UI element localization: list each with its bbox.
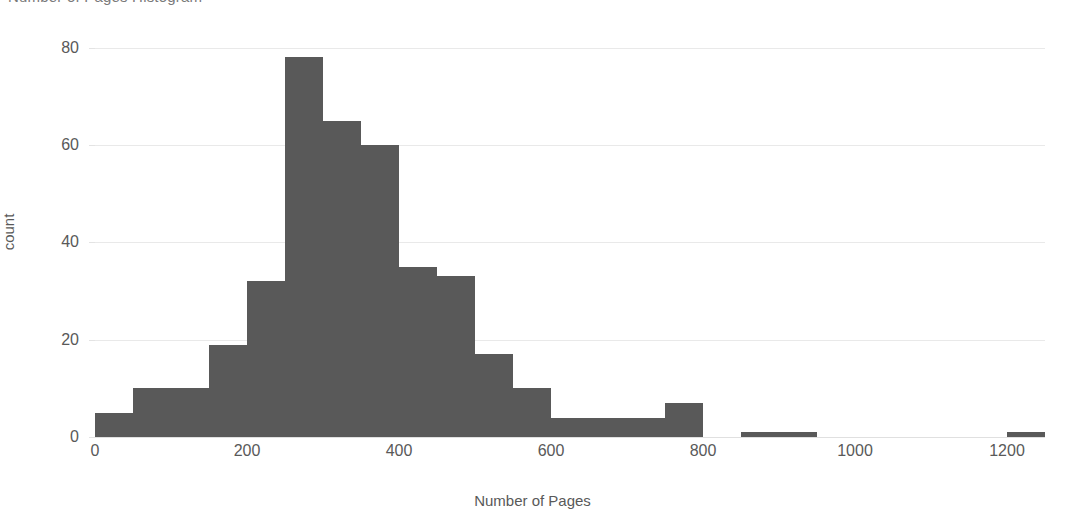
y-axis-tick-mark xyxy=(89,340,95,341)
histogram-bar xyxy=(171,388,209,437)
x-axis-tick-label: 600 xyxy=(538,442,565,460)
histogram-bar xyxy=(627,418,665,437)
y-axis-tick-label: 20 xyxy=(61,331,79,349)
y-axis-title: count xyxy=(0,214,17,251)
y-axis-tick-label: 40 xyxy=(61,233,79,251)
y-axis-tick-mark xyxy=(89,145,95,146)
x-axis-tick-label: 800 xyxy=(690,442,717,460)
y-axis-tick-mark xyxy=(89,242,95,243)
histogram-bar xyxy=(665,403,703,437)
gridline xyxy=(95,242,1045,243)
x-axis-tick-label: 0 xyxy=(91,442,100,460)
x-axis-tick-label: 200 xyxy=(234,442,261,460)
x-axis-tick-label: 1200 xyxy=(989,442,1025,460)
histogram-bar xyxy=(95,413,133,437)
histogram-bar xyxy=(361,145,399,437)
x-axis-tick-label: 400 xyxy=(386,442,413,460)
gridline xyxy=(95,145,1045,146)
y-axis-tick-mark xyxy=(89,48,95,49)
x-axis-title: Number of Pages xyxy=(0,492,1065,509)
histogram-bar xyxy=(437,276,475,437)
gridline xyxy=(95,48,1045,49)
y-axis-tick-label: 60 xyxy=(61,136,79,154)
histogram-bar xyxy=(133,388,171,437)
histogram-bar xyxy=(589,418,627,437)
histogram-bar xyxy=(323,121,361,437)
chart-title: Number of Pages Histogram xyxy=(8,0,202,5)
gridline xyxy=(95,340,1045,341)
histogram-bar xyxy=(285,57,323,437)
histogram-bar xyxy=(513,388,551,437)
histogram-bar xyxy=(475,354,513,437)
y-axis-tick-label: 0 xyxy=(70,428,79,446)
axis-baseline xyxy=(95,437,1045,438)
histogram-bar xyxy=(247,281,285,437)
histogram-figure: Number of Pages Histogram count 02040608… xyxy=(0,0,1065,531)
histogram-bar xyxy=(551,418,589,437)
x-axis-tick-label: 1000 xyxy=(837,442,873,460)
histogram-bar xyxy=(399,267,437,437)
histogram-bar xyxy=(209,345,247,437)
y-axis-tick-label: 80 xyxy=(61,39,79,57)
plot-area: 020406080 020040060080010001200 xyxy=(95,38,1045,437)
